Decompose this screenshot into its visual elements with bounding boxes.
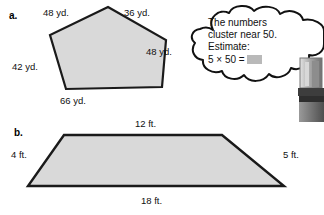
bubble-line-1: The numbers [208, 17, 267, 29]
trapezoid-label-bottom: 18 ft. [141, 196, 162, 206]
pentagon-label-bottom: 66 yd. [60, 96, 86, 106]
trapezoid-label-left: 4 ft. [11, 150, 27, 160]
trapezoid-label-right: 5 ft. [283, 150, 299, 160]
pentagon-label-top-right: 36 yd. [124, 8, 150, 18]
worksheet-page: a. 48 yd. 36 yd. 48 yd. 42 yd. 66 yd. Th… [0, 0, 324, 215]
pentagon-label-right: 48 yd. [146, 47, 172, 57]
problem-a-letter: a. [9, 10, 17, 21]
bubble-line-2: cluster near 50. [208, 29, 277, 41]
pentagon-label-left: 42 yd. [12, 62, 38, 72]
trapezoid-shape [22, 130, 294, 192]
estimate-expression: 5 × 50 = [208, 54, 245, 65]
bubble-line-3: Estimate: [208, 41, 250, 53]
trapezoid-label-top: 12 ft. [135, 119, 156, 129]
student-photo-fragment [296, 56, 324, 122]
bubble-line-4: 5 × 50 = [208, 54, 262, 66]
answer-blank[interactable] [247, 55, 262, 64]
pentagon-label-top-left: 48 yd. [43, 8, 69, 18]
